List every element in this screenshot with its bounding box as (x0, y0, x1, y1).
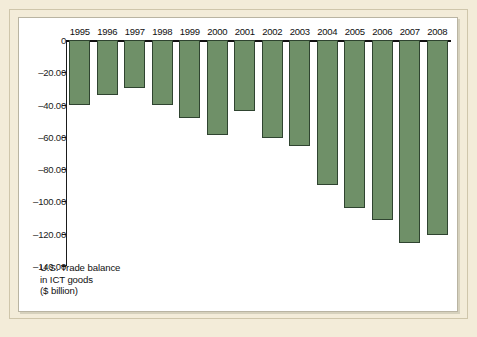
bar-2000 (207, 40, 228, 135)
bar-1996 (97, 40, 118, 95)
y-axis-line (66, 40, 67, 266)
x-tick-label-1998: 1998 (149, 26, 177, 37)
bar-2003 (289, 40, 310, 146)
x-tick-label-2007: 2007 (396, 26, 424, 37)
bar-2008 (427, 40, 448, 235)
bar-2001 (234, 40, 255, 111)
x-tick-label-2001: 2001 (231, 26, 259, 37)
x-tick-label-2004: 2004 (314, 26, 342, 37)
bar-1995 (69, 40, 90, 105)
bar-2005 (344, 40, 365, 208)
chart-card: 0–20.00–40.00–60.00–80.00–100.00–120.00–… (18, 17, 458, 312)
x-tick-label-1996: 1996 (94, 26, 122, 37)
bar-1997 (124, 40, 145, 88)
x-tick-label-2008: 2008 (424, 26, 452, 37)
bar-2004 (317, 40, 338, 185)
x-tick-label-2002: 2002 (259, 26, 287, 37)
caption-line-1: U.S. Trade balance (40, 262, 120, 274)
x-tick-label-2006: 2006 (369, 26, 397, 37)
x-tick-label-1999: 1999 (176, 26, 204, 37)
caption-line-2: in ICT goods (40, 274, 120, 286)
bar-2002 (262, 40, 283, 138)
bar-1998 (152, 40, 173, 105)
bar-2007 (399, 40, 420, 243)
chart-caption: U.S. Trade balance in ICT goods ($ billi… (40, 262, 120, 297)
caption-line-3: ($ billion) (40, 285, 120, 297)
x-tick-label-2000: 2000 (204, 26, 232, 37)
x-tick-label-1995: 1995 (66, 26, 94, 37)
x-tick-label-2003: 2003 (286, 26, 314, 37)
x-tick-label-2005: 2005 (341, 26, 369, 37)
bar-2006 (372, 40, 393, 220)
figure-frame: 0–20.00–40.00–60.00–80.00–100.00–120.00–… (0, 0, 477, 337)
x-tick-label-1997: 1997 (121, 26, 149, 37)
bar-1999 (179, 40, 200, 118)
